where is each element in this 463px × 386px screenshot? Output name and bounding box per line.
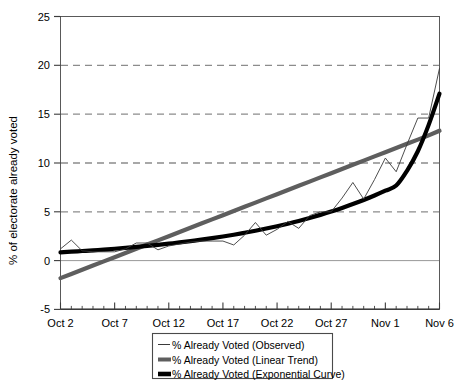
x-tick-label: Oct 27 [315, 317, 347, 329]
y-tick-label: 15 [38, 108, 50, 120]
x-tick-label: Oct 12 [153, 317, 185, 329]
legend-label-observed: % Already Voted (Observed) [172, 339, 305, 351]
x-tick-label: Nov 6 [425, 317, 454, 329]
chart-figure: % of electorate already voted -505101520… [0, 0, 463, 386]
x-tick-label: Oct 17 [207, 317, 239, 329]
x-tick-label: Oct 22 [261, 317, 293, 329]
x-tick-label: Oct 2 [47, 317, 73, 329]
y-axis-title: % of electorate already voted [7, 116, 19, 265]
y-tick-label: 10 [38, 157, 50, 169]
legend-label-exponential: % Already Voted (Exponential Curve) [172, 368, 345, 380]
y-tick-label: -5 [40, 303, 50, 315]
x-tick-label: Oct 7 [101, 317, 127, 329]
y-tick-label: 25 [38, 11, 50, 23]
x-tick-label: Nov 1 [371, 317, 400, 329]
y-tick-label: 5 [44, 206, 50, 218]
legend: % Already Voted (Observed) % Already Vot… [153, 334, 345, 381]
chart-svg: % of electorate already voted -505101520… [0, 0, 463, 386]
y-tick-label: 0 [44, 255, 50, 267]
legend-label-linear: % Already Voted (Linear Trend) [172, 354, 318, 366]
y-tick-label: 20 [38, 59, 50, 71]
